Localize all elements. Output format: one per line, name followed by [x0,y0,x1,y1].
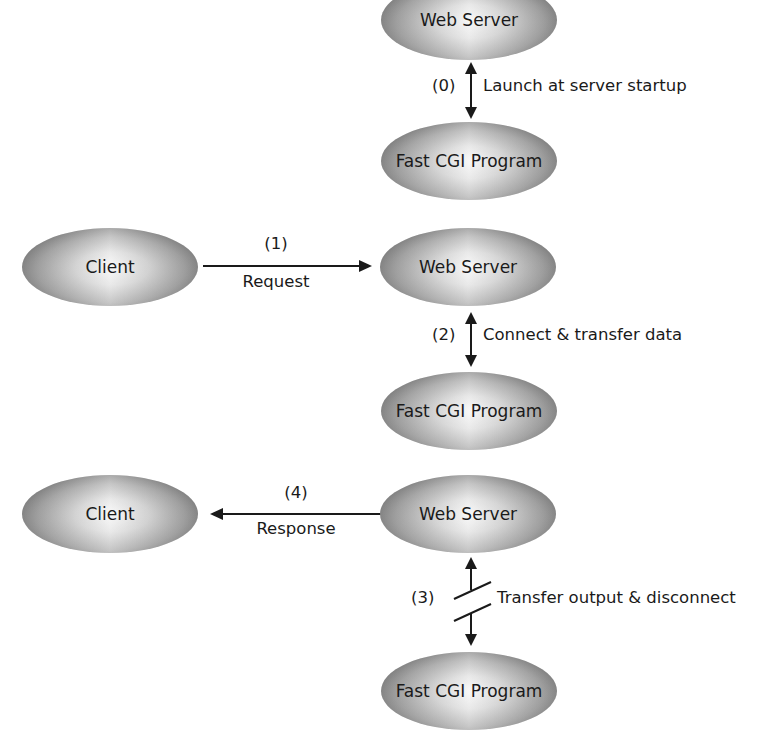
node-client-1: Client [22,228,198,306]
node-fastcgi-1: Fast CGI Program [381,372,557,450]
node-web-server-1: Web Server [380,228,556,306]
step-2-number: (2) [432,325,455,344]
arrow-step-0 [465,62,477,119]
step-2-label: Connect & transfer data [483,325,682,344]
arrow-step-1 [203,260,372,272]
step-1-label: Request [242,272,310,291]
fastcgi-diagram: Web Server (0) Launch at server startup … [0,0,776,742]
step-4-label: Response [256,519,335,538]
node-client-2: Client [22,475,198,553]
step-3-label: Transfer output & disconnect [496,588,736,607]
step-0-number: (0) [432,76,455,95]
node-label: Fast CGI Program [396,681,543,701]
step-1-number: (1) [264,234,287,253]
broken-arrow-step-3 [454,557,491,646]
node-label: Web Server [419,257,517,277]
node-fastcgi-2: Fast CGI Program [381,652,557,730]
step-3-number: (3) [411,588,434,607]
node-web-server-0: Web Server [381,0,557,60]
step-4-number: (4) [284,483,307,502]
node-label: Web Server [419,504,517,524]
node-web-server-2: Web Server [380,475,556,553]
node-label: Client [85,257,135,277]
node-label: Fast CGI Program [396,151,543,171]
node-fastcgi-0: Fast CGI Program [381,122,557,200]
node-label: Fast CGI Program [396,401,543,421]
node-label: Client [85,504,135,524]
step-0-label: Launch at server startup [483,76,687,95]
node-label: Web Server [420,10,518,30]
arrow-step-2 [465,312,477,367]
